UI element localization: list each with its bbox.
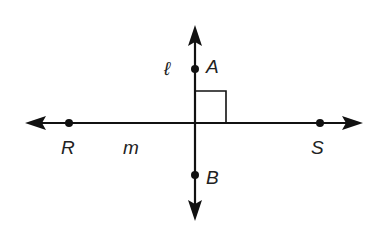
label-B: B <box>206 167 219 188</box>
label-S: S <box>311 137 324 158</box>
point-S <box>316 119 324 127</box>
label-R: R <box>61 137 75 158</box>
point-B <box>191 171 199 179</box>
label-line-l: ℓ <box>163 58 171 79</box>
point-R <box>65 119 73 127</box>
label-A: A <box>205 56 219 77</box>
perpendicular-lines-diagram: A B R S ℓ m <box>0 0 388 235</box>
right-angle-marker <box>195 91 226 123</box>
label-line-m: m <box>123 137 139 158</box>
point-A <box>191 65 199 73</box>
